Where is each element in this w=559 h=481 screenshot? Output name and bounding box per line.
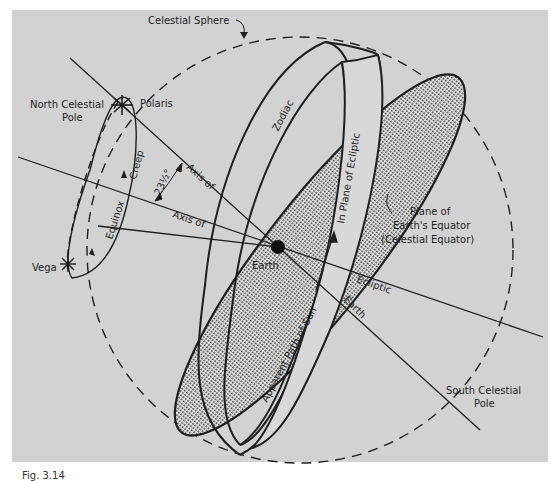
label-plane-of: Plane of xyxy=(410,206,451,217)
label-north-celestial-pole: North Celestial xyxy=(30,99,104,110)
polaris-star-icon xyxy=(111,95,133,115)
precession-loop xyxy=(67,97,136,278)
label-north-celestial-pole-2: Pole xyxy=(62,112,83,123)
figure-caption: Fig. 3.14 xyxy=(22,470,65,481)
label-south-celestial-pole-2: Pole xyxy=(474,398,495,409)
label-south-celestial-pole: South Celestial xyxy=(446,385,521,396)
label-celestial-equator: (Celestial Equator) xyxy=(381,234,474,245)
label-celestial-sphere: Celestial Sphere xyxy=(148,15,229,26)
label-vega: Vega xyxy=(32,262,57,273)
label-earth: Earth xyxy=(252,260,279,271)
label-earths-equator: Earth's Equator xyxy=(393,220,471,231)
label-creep: Creep xyxy=(127,149,145,180)
label-zodiac: Zodiac xyxy=(270,98,296,133)
vega-star-icon xyxy=(60,256,76,272)
label-tilt-angle: 23½° xyxy=(152,167,174,196)
label-axis-of-ecliptic: Axis of xyxy=(171,208,207,229)
equator-plane xyxy=(138,44,502,466)
label-axis-of-earth: Axis of xyxy=(185,161,218,192)
label-polaris: Polaris xyxy=(140,98,173,109)
earth-dot xyxy=(271,240,285,254)
